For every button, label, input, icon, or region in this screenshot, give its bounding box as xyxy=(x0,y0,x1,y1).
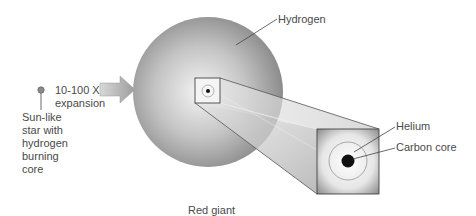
helium-label: Helium xyxy=(396,120,430,133)
sun-like-line-4: burning xyxy=(22,150,68,163)
sun-like-line-2: star with xyxy=(22,124,68,137)
sun-like-star xyxy=(38,87,44,110)
red-giant-label: Red giant xyxy=(188,204,235,216)
sun-like-star-label: Sun-like star with hydrogen burning core xyxy=(22,111,68,176)
core-box-enlarged xyxy=(317,129,379,194)
carbon-core xyxy=(342,155,355,168)
sun-like-line-1: Sun-like xyxy=(22,111,68,124)
core-box-small xyxy=(195,78,220,103)
expansion-label-line2: expansion xyxy=(55,97,105,110)
sun-like-line-3: hydrogen xyxy=(22,137,68,150)
hydrogen-label: Hydrogen xyxy=(278,13,326,26)
sun-like-line-5: core xyxy=(22,163,68,176)
expansion-arrow-icon xyxy=(100,76,135,103)
carbon-core-label: Carbon core xyxy=(396,141,457,154)
expansion-label: 10-100 X expansion xyxy=(55,84,105,110)
expansion-label-line1: 10-100 X xyxy=(55,84,105,97)
